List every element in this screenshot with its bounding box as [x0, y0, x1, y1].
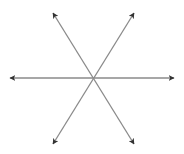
arrow-lines: [10, 13, 174, 144]
six-arrow-star-diagram: [0, 0, 184, 154]
